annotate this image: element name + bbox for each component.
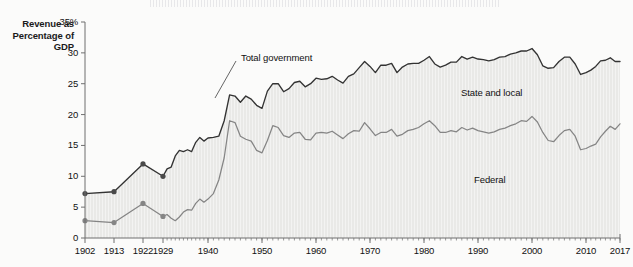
x-axis-tick-label: 2017 (600, 245, 633, 256)
annotation-federal: Federal (474, 174, 506, 185)
x-axis-tick-label: 1990 (458, 245, 498, 256)
annotation-state-and-local: State and local (461, 87, 522, 98)
x-axis-tick-label: 1970 (350, 245, 390, 256)
y-axis-tick-label: 10 (52, 170, 78, 181)
data-point-marker-total[interactable] (140, 161, 145, 166)
annotation-total-government: Total government (241, 52, 312, 63)
y-axis-tick-label: 25 (52, 78, 78, 89)
data-point-marker-federal[interactable] (160, 214, 165, 219)
y-axis-tick-label: 0 (52, 232, 78, 243)
data-point-marker-federal[interactable] (140, 201, 145, 206)
y-axis-tick-label: 5 (52, 201, 78, 212)
chart-plot-area (0, 0, 633, 267)
y-axis-tick-label: 20 (52, 109, 78, 120)
total-government-leader-line[interactable] (215, 61, 236, 98)
x-axis-tick-label: 1940 (188, 245, 228, 256)
y-axis-tick-label: 15 (52, 139, 78, 150)
area-texture-overlay[interactable] (85, 49, 620, 238)
x-axis-tick-label: 2000 (512, 245, 552, 256)
data-point-marker-total[interactable] (160, 174, 165, 179)
data-point-marker-federal[interactable] (111, 220, 116, 225)
x-axis-tick-label: 1929 (143, 245, 183, 256)
x-axis-tick-label: 1960 (296, 245, 336, 256)
chart-svg (0, 0, 633, 267)
x-axis-tick-label: 1950 (242, 245, 282, 256)
data-point-marker-total[interactable] (111, 189, 116, 194)
x-axis-tick-label: 1980 (404, 245, 444, 256)
y-axis-tick-label: 30 (52, 47, 78, 58)
y-axis-tick-label: 35% (52, 16, 78, 27)
